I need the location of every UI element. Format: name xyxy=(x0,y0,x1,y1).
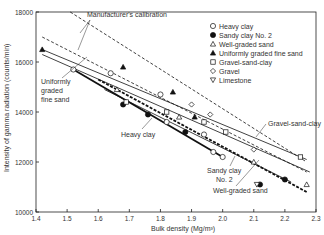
legend-label: Heavy clay xyxy=(219,23,254,31)
filled-circle-marker xyxy=(183,129,188,134)
pointer-heavy-clay xyxy=(142,118,152,129)
open-diamond-marker xyxy=(208,112,213,117)
x-tick-label: 2.3 xyxy=(311,215,320,222)
y-tick-label: 18000 xyxy=(15,9,33,16)
open-circle-marker xyxy=(108,71,113,76)
open-square-marker xyxy=(164,110,168,114)
annotation-uniform-1: Uniformly xyxy=(41,78,71,86)
gamma-calibration-chart: 1.41.51.61.71.81.92.02.12.22.3 100001200… xyxy=(0,0,324,235)
annotation-sandy-clay-1: Sandy clay xyxy=(207,167,242,175)
legend-label: Gravel-sand-clay xyxy=(219,59,272,67)
pointer-manufacturer-1 xyxy=(80,20,90,33)
open-triangle-marker xyxy=(251,159,256,164)
open-circle-marker xyxy=(210,23,215,28)
y-axis-ticks: 1000012000140001600018000 xyxy=(15,9,39,216)
legend-label: Limestone xyxy=(219,77,251,84)
filled-triangle-marker xyxy=(210,50,215,55)
open-square-marker xyxy=(298,155,302,159)
annotation-well-graded-sand: Well-graded sand xyxy=(213,187,268,195)
x-tick-label: 2.2 xyxy=(280,215,289,222)
y-axis-label: Intensity of gamma radiation (counts/min… xyxy=(3,44,11,172)
open-square-marker xyxy=(211,60,215,64)
annotation-uniform-3: fine sand xyxy=(41,96,70,103)
filled-circle-marker xyxy=(210,32,215,37)
legend-label: Uniformly graded fine sand xyxy=(219,50,303,58)
filled-circle-marker xyxy=(145,112,150,117)
y-tick-label: 12000 xyxy=(15,159,33,166)
x-tick-label: 1.6 xyxy=(94,215,103,222)
annotation-manufacturer: Manufacturer's calibration xyxy=(87,11,167,18)
filled-circle-marker xyxy=(282,177,287,182)
y-tick-label: 14000 xyxy=(15,109,33,116)
open-diamond-marker xyxy=(189,102,194,107)
x-tick-label: 1.4 xyxy=(31,215,40,222)
y-tick-label: 10000 xyxy=(15,209,33,216)
legend-label: Gravel xyxy=(219,68,240,75)
pointer-manufacturer-2 xyxy=(78,20,90,50)
calibration-line xyxy=(42,50,306,160)
open-circle-marker xyxy=(201,132,206,137)
open-circle-marker xyxy=(211,149,216,154)
open-circle-marker xyxy=(220,154,225,159)
x-tick-label: 2.1 xyxy=(249,215,258,222)
x-tick-label: 2.0 xyxy=(218,215,227,222)
open-triangle-marker xyxy=(210,41,215,46)
x-tick-label: 1.9 xyxy=(187,215,196,222)
open-square-marker xyxy=(202,120,206,124)
annotation-gravel-sand-clay: Gravel-sand-clay xyxy=(268,120,321,128)
open-diamond-marker xyxy=(210,68,215,73)
open-circle-marker xyxy=(158,92,163,97)
x-tick-label: 1.8 xyxy=(156,215,165,222)
open-square-marker xyxy=(224,130,228,134)
filled-triangle-marker xyxy=(121,64,126,69)
calibration-line xyxy=(42,55,310,173)
x-tick-label: 1.5 xyxy=(63,215,72,222)
legend-label: Sandy clay No. 2 xyxy=(219,32,272,40)
open-down-triangle-marker xyxy=(210,78,215,83)
open-circle-marker xyxy=(164,119,169,124)
open-square-marker xyxy=(124,100,128,104)
filled-triangle-marker xyxy=(40,47,45,52)
annotation-uniform-2: graded xyxy=(41,87,63,95)
x-axis-ticks: 1.41.51.61.71.81.92.02.12.22.3 xyxy=(31,209,320,222)
legend: Heavy claySandy clay No. 2Well-graded sa… xyxy=(210,23,302,84)
open-triangle-marker xyxy=(304,182,309,187)
filled-triangle-marker xyxy=(170,89,175,94)
data-points xyxy=(40,47,310,187)
pointer-sandy-clay xyxy=(230,156,235,166)
annotation-heavy-clay: Heavy clay xyxy=(121,131,156,139)
x-tick-label: 1.7 xyxy=(125,215,134,222)
open-diamond-marker xyxy=(251,147,256,152)
plot-frame xyxy=(36,12,316,212)
filled-triangle-marker xyxy=(192,114,197,119)
open-circle-marker xyxy=(71,67,76,72)
annotation-sandy-clay-2: No. 2 xyxy=(216,176,233,183)
legend-label: Well-graded sand xyxy=(219,41,274,49)
x-axis-label: Bulk density (Mg/m³) xyxy=(151,225,215,233)
y-tick-label: 16000 xyxy=(15,59,33,66)
